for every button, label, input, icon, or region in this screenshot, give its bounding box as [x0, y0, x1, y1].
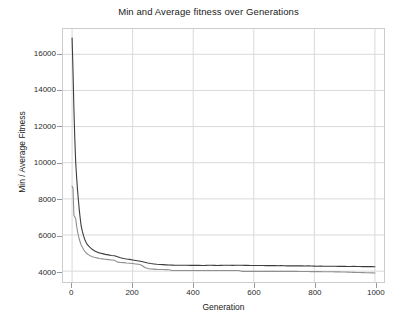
chart-figure: Min and Average fitness over Generations… — [0, 0, 417, 331]
y-tick-label: 6000 — [2, 231, 56, 240]
x-tick-labels: 02004006008001000 — [0, 288, 417, 300]
y-tick-label: 8000 — [2, 195, 56, 204]
x-tick-mark — [254, 283, 255, 288]
y-tick-labels: 40006000800010000120001400016000 — [0, 0, 56, 331]
x-tick-label: 600 — [224, 288, 284, 297]
x-tick-label: 400 — [163, 288, 223, 297]
x-tick-mark — [71, 283, 72, 288]
x-tick-label: 0 — [41, 288, 101, 297]
y-tick-label: 14000 — [2, 85, 56, 94]
x-tick-mark — [376, 283, 377, 288]
plot-area — [62, 28, 385, 283]
y-tick-label: 12000 — [2, 122, 56, 131]
chart-title: Min and Average fitness over Generations — [0, 6, 417, 17]
x-tick-label: 800 — [285, 288, 345, 297]
y-tick-label: 4000 — [2, 268, 56, 277]
series-line-min — [72, 186, 375, 273]
x-axis-label: Generation — [62, 302, 385, 312]
series-line-average — [72, 38, 375, 267]
x-tick-mark — [315, 283, 316, 288]
x-tick-label: 1000 — [346, 288, 406, 297]
series-lines — [63, 29, 384, 282]
x-tick-label: 200 — [102, 288, 162, 297]
x-tick-mark — [193, 283, 194, 288]
y-tick-label: 16000 — [2, 49, 56, 58]
y-tick-label: 10000 — [2, 158, 56, 167]
x-tick-mark — [132, 283, 133, 288]
